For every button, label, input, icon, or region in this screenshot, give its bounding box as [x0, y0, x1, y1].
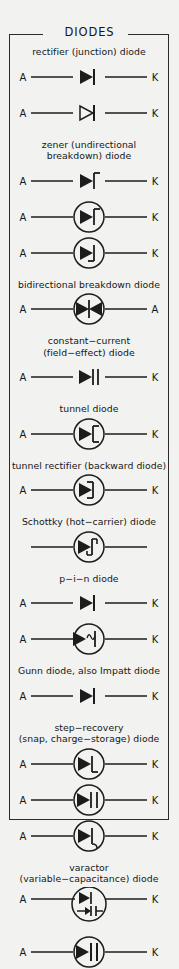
svg-text:A: A — [20, 634, 27, 645]
svg-text:A: A — [20, 72, 27, 83]
svg-text:A: A — [20, 691, 27, 702]
caption-schottky: Schottky (hot−carrier) diode — [9, 516, 169, 528]
symbol-step-recovery-b: AK — [9, 783, 169, 817]
symbol-rectifier-open: AK — [9, 96, 169, 130]
symbol-gunn-diode: AK — [9, 679, 169, 713]
symbol-zener-circled-alt: AK — [9, 236, 169, 270]
svg-text:A: A — [20, 795, 27, 806]
caption-pin: p−i−n diode — [9, 573, 169, 585]
svg-text:K: K — [152, 176, 159, 187]
svg-text:K: K — [152, 248, 159, 259]
svg-text:K: K — [152, 947, 159, 958]
symbol-bidirectional-breakdown: AA — [9, 292, 169, 326]
symbol-step-recovery-c: AK — [9, 819, 169, 853]
svg-text:A: A — [20, 212, 27, 223]
symbol-list: rectifier (junction) diodeAKAKzener (und… — [9, 34, 169, 969]
caption-tunnel-rectifier: tunnel rectifier (backward diode) — [9, 460, 169, 472]
svg-text:K: K — [152, 691, 159, 702]
svg-text:A: A — [20, 759, 27, 770]
symbol-pin-plain: AK — [9, 586, 169, 620]
caption-tunnel: tunnel diode — [9, 403, 169, 415]
caption-bidirectional: bidirectional breakdown diode — [9, 279, 169, 291]
symbol-zener-plain: AK — [9, 164, 169, 198]
caption-varactor: varactor (variable−capacitance) diode — [9, 862, 169, 885]
symbol-tunnel-rectifier: AK — [9, 473, 169, 507]
symbol-zener-circled: AK — [9, 200, 169, 234]
svg-text:K: K — [152, 894, 159, 905]
svg-text:K: K — [152, 429, 159, 440]
svg-text:A: A — [20, 831, 27, 842]
svg-text:A: A — [20, 108, 27, 119]
svg-text:A: A — [20, 947, 27, 958]
svg-text:K: K — [152, 795, 159, 806]
svg-text:K: K — [152, 831, 159, 842]
svg-text:A: A — [20, 598, 27, 609]
caption-gunn: Gunn diode, also Impatt diode — [9, 665, 169, 677]
svg-text:A: A — [152, 304, 159, 315]
svg-text:A: A — [20, 485, 27, 496]
symbol-constant-current: AK — [9, 360, 169, 394]
symbol-step-recovery-a: AK — [9, 747, 169, 781]
svg-text:K: K — [152, 598, 159, 609]
symbol-tunnel-diode: AK — [9, 417, 169, 451]
symbol-rectifier-filled: AK — [9, 60, 169, 94]
symbol-varactor-a: AK — [9, 887, 169, 933]
symbol-pin-circled: AK — [9, 622, 169, 656]
svg-text:A: A — [20, 894, 27, 905]
svg-text:K: K — [152, 485, 159, 496]
svg-text:K: K — [152, 212, 159, 223]
caption-step-recovery: step−recovery (snap, charge−storage) dio… — [9, 722, 169, 745]
svg-text:A: A — [20, 304, 27, 315]
svg-text:A: A — [20, 248, 27, 259]
svg-text:A: A — [20, 429, 27, 440]
svg-text:K: K — [152, 72, 159, 83]
symbol-schottky-diode — [9, 530, 169, 564]
caption-constant-current: constant−current (field−effect) diode — [9, 335, 169, 358]
caption-zener: zener (undirectional breakdown) diode — [9, 139, 169, 162]
caption-rectifier: rectifier (junction) diode — [9, 46, 169, 58]
symbol-varactor-b: AK — [9, 935, 169, 969]
svg-text:K: K — [152, 108, 159, 119]
svg-text:A: A — [20, 176, 27, 187]
svg-text:A: A — [20, 372, 27, 383]
svg-text:K: K — [152, 372, 159, 383]
svg-text:K: K — [152, 634, 159, 645]
svg-text:K: K — [152, 759, 159, 770]
